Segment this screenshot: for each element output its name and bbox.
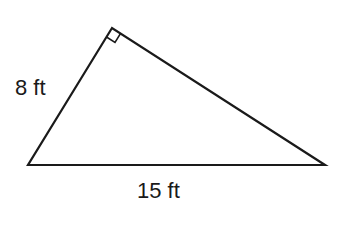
right-triangle [28,28,325,165]
base-length-label: 15 ft [137,180,180,202]
leg-length-label: 8 ft [15,77,46,99]
